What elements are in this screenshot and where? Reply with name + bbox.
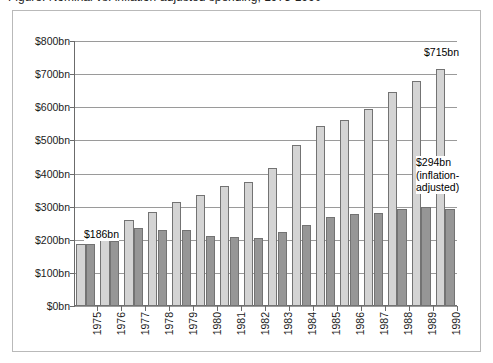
- x-axis-tick-label-1978: 1978: [163, 312, 175, 335]
- bar-nominal-1987: [364, 109, 373, 306]
- x-axis-tick-label-1987: 1987: [378, 312, 390, 335]
- gridline: [74, 41, 457, 42]
- bar-adjusted-1977: [134, 228, 143, 307]
- y-axis-tick: [70, 41, 75, 42]
- gridline: [74, 174, 457, 175]
- bar-nominal-1986: [340, 120, 349, 306]
- x-axis-tick: [121, 306, 122, 311]
- x-axis-tick: [265, 306, 266, 311]
- bar-nominal-1975: [76, 244, 85, 306]
- x-axis-tick-label-1986: 1986: [354, 312, 366, 335]
- annotation-last-nominal: $715bn: [424, 46, 459, 59]
- bar-adjusted-1988: [397, 209, 406, 306]
- x-axis-tick: [97, 306, 98, 311]
- bar-adjusted-1981: [230, 237, 239, 306]
- bar-adjusted-1990: [445, 209, 454, 306]
- bar-adjusted-1983: [278, 232, 287, 306]
- x-axis-tick: [217, 306, 218, 311]
- x-axis-tick-label-1976: 1976: [115, 312, 127, 335]
- x-axis-tick-label-1988: 1988: [402, 312, 414, 335]
- x-axis-tick: [433, 306, 434, 311]
- y-axis-tick: [70, 306, 75, 307]
- bar-adjusted-1987: [374, 213, 383, 306]
- x-axis-tick: [385, 306, 386, 311]
- x-axis-tick: [313, 306, 314, 311]
- gridline: [74, 140, 457, 141]
- bar-nominal-1983: [268, 168, 277, 306]
- x-axis-tick-label-1982: 1982: [259, 312, 271, 335]
- y-axis-tick-label: $200bn: [35, 234, 70, 246]
- x-axis-tick: [289, 306, 290, 311]
- y-axis-tick: [70, 273, 75, 274]
- y-axis-tick-label: $100bn: [35, 267, 70, 279]
- gridline: [74, 74, 457, 75]
- x-axis-tick-label-1980: 1980: [211, 312, 223, 335]
- x-axis-tick-label-1990: 1990: [450, 312, 462, 335]
- y-axis-tick-label: $400bn: [35, 168, 70, 180]
- bar-nominal-1982: [244, 182, 253, 306]
- y-axis-tick: [70, 174, 75, 175]
- y-axis-tick-label: $500bn: [35, 134, 70, 146]
- bar-nominal-1978: [148, 212, 157, 306]
- y-axis-tick-label: $800bn: [35, 35, 70, 47]
- x-axis-tick-label-1979: 1979: [187, 312, 199, 335]
- annotation-last-adjusted-line-2: (inflation-: [416, 169, 459, 182]
- bar-nominal-1976: [100, 235, 109, 306]
- x-axis-tick-label-1985: 1985: [330, 312, 342, 335]
- bar-nominal-1985: [316, 126, 325, 306]
- y-axis-labels: $0bn$100bn$200bn$300bn$400bn$500bn$600bn…: [14, 41, 70, 306]
- annotation-last-adjusted: $294bn(inflation-adjusted): [416, 156, 459, 194]
- y-axis-tick: [70, 240, 75, 241]
- bar-adjusted-1984: [302, 225, 311, 306]
- y-axis-tick-label: $0bn: [47, 300, 70, 312]
- chart-figure: Figure: Nominal vs. inflation-adjusted s…: [0, 0, 493, 363]
- x-axis-tick: [145, 306, 146, 311]
- bar-nominal-1989: [412, 81, 421, 306]
- x-axis-tick: [241, 306, 242, 311]
- bar-adjusted-1982: [254, 238, 263, 306]
- x-axis-tick-label-1981: 1981: [235, 312, 247, 335]
- chart-title: Figure: Nominal vs. inflation-adjusted s…: [8, 0, 322, 4]
- bar-adjusted-1978: [158, 230, 167, 306]
- gridline: [74, 107, 457, 108]
- y-axis-tick: [70, 140, 75, 141]
- x-axis-tick: [193, 306, 194, 311]
- bar-nominal-1980: [196, 195, 205, 306]
- annotation-last-adjusted-line-1: $294bn: [416, 156, 459, 169]
- clipped-title-strip: Figure: Nominal vs. inflation-adjusted s…: [0, 0, 493, 9]
- bar-nominal-1979: [172, 202, 181, 306]
- gridline: [74, 207, 457, 208]
- bar-adjusted-1975: [86, 244, 95, 306]
- bar-adjusted-1989: [421, 207, 430, 306]
- bar-nominal-1984: [292, 145, 301, 306]
- bar-adjusted-1976: [110, 241, 119, 306]
- x-axis-tick: [337, 306, 338, 311]
- bar-nominal-1977: [124, 220, 133, 306]
- y-axis-tick: [70, 74, 75, 75]
- x-axis-tick-label-1983: 1983: [282, 312, 294, 335]
- y-axis-tick-label: $600bn: [35, 101, 70, 113]
- x-axis-tick-label-1977: 1977: [139, 312, 151, 335]
- plot-area: [74, 41, 457, 306]
- bar-nominal-1988: [388, 92, 397, 306]
- x-axis-tick-label-1975: 1975: [91, 312, 103, 335]
- bar-adjusted-1980: [206, 236, 215, 306]
- y-axis-tick-label: $300bn: [35, 201, 70, 213]
- x-axis-tick: [361, 306, 362, 311]
- annotation-first-value: $186bn: [84, 228, 119, 241]
- bar-adjusted-1985: [326, 217, 335, 306]
- y-axis-tick-label: $700bn: [35, 68, 70, 80]
- x-axis-tick-label-1989: 1989: [426, 312, 438, 335]
- x-axis-tick-label-1984: 1984: [306, 312, 318, 335]
- x-axis-labels: 1975197619771978197919801981198219831984…: [74, 312, 457, 356]
- bar-adjusted-1979: [182, 230, 191, 306]
- bar-nominal-1981: [220, 186, 229, 306]
- x-axis-tick: [169, 306, 170, 311]
- bar-adjusted-1986: [350, 214, 359, 306]
- y-axis-tick: [70, 107, 75, 108]
- annotation-last-adjusted-line-3: adjusted): [416, 181, 459, 194]
- y-axis-tick: [70, 207, 75, 208]
- x-axis-tick: [409, 306, 410, 311]
- x-axis-tick: [457, 306, 458, 311]
